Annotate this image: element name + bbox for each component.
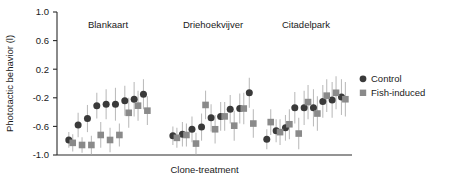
panel-title: Citadelpark xyxy=(282,19,330,30)
data-point-fish-induced xyxy=(97,132,104,139)
data-point-fish-induced xyxy=(125,110,132,117)
y-tick-label: -0.2 xyxy=(33,92,49,103)
data-point-fish-induced xyxy=(174,135,181,142)
data-point-fish-induced xyxy=(342,96,349,103)
data-point-fish-induced xyxy=(116,132,123,139)
data-point-fish-induced xyxy=(267,119,274,126)
data-point-fish-induced xyxy=(88,142,95,149)
data-point-control xyxy=(246,89,253,96)
data-point-control xyxy=(208,114,215,121)
data-point-fish-induced xyxy=(79,142,86,149)
data-point-fish-induced xyxy=(212,126,219,133)
data-point-control xyxy=(140,91,147,98)
data-point-control xyxy=(227,106,234,113)
data-point-fish-induced xyxy=(144,107,151,114)
y-tick-label: 0.2 xyxy=(36,64,49,75)
data-point-fish-induced xyxy=(250,120,257,127)
y-axis-title: Phototactic behavior (l) xyxy=(4,35,15,132)
data-point-fish-induced xyxy=(277,129,284,136)
data-point-control xyxy=(131,96,138,103)
data-point-fish-induced xyxy=(240,105,247,112)
data-point-fish-induced xyxy=(314,110,321,117)
data-point-fish-induced xyxy=(305,99,312,106)
chart-canvas: 1.00.60.2-0.2-0.6-1.0 BlankaartDriehoekv… xyxy=(0,0,456,185)
data-point-fish-induced xyxy=(295,130,302,137)
data-point-control xyxy=(263,136,270,143)
data-point-control xyxy=(121,97,128,104)
y-tick-label: 0.6 xyxy=(36,35,49,46)
legend-marker-fish-induced xyxy=(360,90,366,96)
data-point-control xyxy=(112,101,119,108)
data-point-control xyxy=(93,102,100,109)
legend-marker-control xyxy=(360,75,367,82)
panel-title: Blankaart xyxy=(88,19,128,30)
data-point-fish-induced xyxy=(193,140,200,147)
data-point-fish-induced xyxy=(183,132,190,139)
data-point-fish-induced xyxy=(231,122,238,129)
data-point-fish-induced xyxy=(135,102,142,109)
panel-title: Driehoekvijver xyxy=(183,19,243,30)
y-tick-label: 1.0 xyxy=(36,6,49,17)
data-point-control xyxy=(103,101,110,108)
legend-label: Control xyxy=(371,73,402,84)
phototactic-behavior-chart: 1.00.60.2-0.2-0.6-1.0 BlankaartDriehoekv… xyxy=(0,0,456,185)
data-point-fish-induced xyxy=(286,121,293,128)
y-tick-label: -1.0 xyxy=(33,149,49,160)
data-point-fish-induced xyxy=(107,137,114,144)
data-point-fish-induced xyxy=(69,140,76,147)
data-point-control xyxy=(84,115,91,122)
y-tick-label: -0.6 xyxy=(33,121,49,132)
data-point-fish-induced xyxy=(333,89,340,96)
data-point-fish-induced xyxy=(323,92,330,99)
data-point-fish-induced xyxy=(202,102,209,109)
data-point-control xyxy=(75,121,82,128)
data-point-control xyxy=(198,124,205,131)
data-point-fish-induced xyxy=(221,113,228,120)
legend-label: Fish-induced xyxy=(371,87,425,98)
x-axis-title: Clone-treatment xyxy=(170,164,238,175)
data-point-control xyxy=(291,104,298,111)
